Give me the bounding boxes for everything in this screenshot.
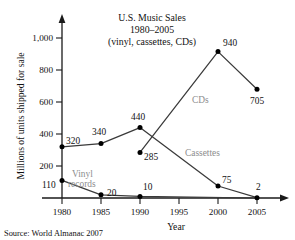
series-label-vinyl-line1: Vinyl xyxy=(72,169,93,179)
series-label-cds: CDs xyxy=(192,95,209,105)
y-tick-label-1000: 1,000 xyxy=(32,33,53,43)
source-note: Source: World Almanac 2007 xyxy=(4,229,103,238)
cds-point-2005 xyxy=(255,87,260,92)
cassettes-point-1990 xyxy=(138,125,143,130)
cassettes-value-label-320: 320 xyxy=(66,136,80,146)
cds-value-label-705: 705 xyxy=(250,96,264,106)
chart-subtitle-years: 1980–2005 xyxy=(130,24,174,35)
x-tick-label-1985: 1985 xyxy=(92,207,111,217)
cassettes-value-label-75: 75 xyxy=(222,175,232,185)
vinyl-value-label-110: 110 xyxy=(42,180,56,190)
chart-subtitle-formats: (vinyl, cassettes, CDs) xyxy=(108,36,196,48)
cassettes-value-label-2: 2 xyxy=(256,182,261,192)
x-tick-label-2005: 2005 xyxy=(248,207,267,217)
x-tick-label-1980: 1980 xyxy=(53,207,72,217)
vinyl-point-1985 xyxy=(99,192,104,197)
vinyl-value-label-10: 10 xyxy=(143,182,153,192)
x-tick-label-2000: 2000 xyxy=(209,207,228,217)
series-label-cassettes: Cassettes xyxy=(185,148,220,158)
y-tick-label-400: 400 xyxy=(39,129,53,139)
y-axis-title: Millions of units shipped for sale xyxy=(15,52,26,179)
x-tick-label-1990: 1990 xyxy=(131,207,150,217)
x-axis-arrowhead xyxy=(280,195,289,202)
x-axis-ticks xyxy=(62,198,257,204)
y-tick-label-200: 200 xyxy=(39,161,53,171)
cassettes-point-2005 xyxy=(255,195,260,200)
x-axis-title: Year xyxy=(167,221,185,232)
cds-value-label-940: 940 xyxy=(223,38,237,48)
cassettes-value-label-340: 340 xyxy=(92,127,106,137)
cds-value-label-285: 285 xyxy=(144,152,158,162)
music-sales-line-chart: U.S. Music Sales 1980–2005 (vinyl, casse… xyxy=(0,0,295,240)
chart-figure: U.S. Music Sales 1980–2005 (vinyl, casse… xyxy=(0,0,295,240)
cassettes-value-label-440: 440 xyxy=(131,112,145,122)
series-label-vinyl-line2: records xyxy=(68,179,96,189)
vinyl-point-1990 xyxy=(138,194,143,199)
vinyl-value-label-20: 20 xyxy=(107,188,117,198)
cassettes-point-1985 xyxy=(99,141,104,146)
cds-point-2000 xyxy=(216,49,221,54)
chart-title: U.S. Music Sales xyxy=(118,12,186,23)
cds-point-1990 xyxy=(138,150,143,155)
cassettes-point-2000 xyxy=(216,184,221,189)
y-tick-label-800: 800 xyxy=(39,65,53,75)
y-tick-label-600: 600 xyxy=(39,97,53,107)
x-tick-label-1995: 1995 xyxy=(170,207,189,217)
y-axis-arrowhead xyxy=(59,14,66,23)
cassettes-point-1980 xyxy=(60,144,65,149)
vinyl-point-1980 xyxy=(60,178,65,183)
